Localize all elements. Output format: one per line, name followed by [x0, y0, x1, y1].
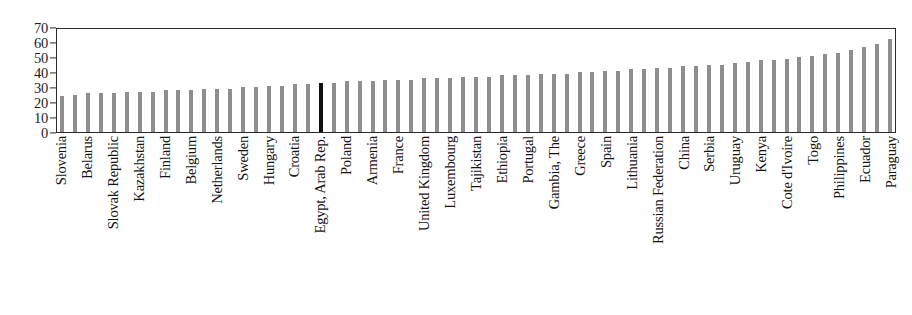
bar — [371, 81, 375, 132]
x-axis-tick-label: Belgium — [183, 136, 198, 185]
x-label-slot: Belgium — [189, 136, 193, 311]
x-label-slot — [617, 136, 621, 311]
x-axis-tick-label: Paraguay — [884, 136, 899, 188]
x-axis-tick-label: Slovak Republic — [106, 136, 121, 229]
bar — [500, 75, 504, 132]
x-axis-tick-label: Serbia — [702, 136, 717, 172]
bar — [215, 89, 219, 133]
bar — [280, 86, 284, 133]
bar — [164, 90, 168, 132]
y-axis-tick-label: 30 — [34, 81, 48, 96]
x-label-slot: Greece — [578, 136, 582, 311]
bar — [448, 78, 452, 132]
x-label-slot: France — [396, 136, 400, 311]
x-label-slot: Ethiopia — [500, 136, 504, 311]
x-label-slot: Armenia — [370, 136, 374, 311]
bar — [849, 50, 853, 133]
bar — [862, 47, 866, 133]
bar — [396, 80, 400, 133]
bar — [759, 60, 763, 132]
x-axis-tick-label: Ecuador — [858, 136, 873, 183]
x-label-slot — [746, 136, 750, 311]
bar — [694, 66, 698, 132]
x-axis-tick-label: Poland — [339, 136, 354, 175]
x-axis-labels: SloveniaBelarusSlovak RepublicKazakhstan… — [56, 136, 896, 311]
x-label-slot: Serbia — [707, 136, 711, 311]
bar — [112, 93, 116, 132]
x-axis-tick-label: France — [391, 136, 406, 174]
x-axis-tick-label: Uruguay — [728, 136, 743, 185]
x-axis-tick-label: China — [676, 136, 691, 170]
bar — [267, 86, 271, 133]
bar — [474, 77, 478, 133]
y-axis: 010203040506070 — [0, 22, 56, 139]
x-label-slot — [331, 136, 335, 311]
x-label-slot — [798, 136, 802, 311]
x-label-slot — [669, 136, 673, 311]
x-axis-tick-label: Netherlands — [209, 136, 224, 204]
bar — [836, 53, 840, 133]
bar — [565, 74, 569, 133]
x-axis-tick-label: Sweden — [235, 136, 250, 181]
x-label-slot: Portugal — [526, 136, 530, 311]
x-axis-tick-label: Greece — [573, 136, 588, 176]
bar — [189, 90, 193, 132]
bar — [823, 54, 827, 132]
x-label-slot — [539, 136, 543, 311]
x-label-slot: Poland — [344, 136, 348, 311]
bar-series — [57, 29, 895, 132]
x-label-slot: Cote d'Ivoire — [785, 136, 789, 311]
bar — [422, 78, 426, 132]
x-label-slot — [150, 136, 154, 311]
x-axis-tick-label: Gambia, The — [547, 136, 562, 209]
x-label-slot — [643, 136, 647, 311]
bar — [875, 44, 879, 133]
x-axis-tick-label: Russian Federation — [650, 136, 665, 244]
chart-container: 010203040506070 SloveniaBelarusSlovak Re… — [0, 0, 912, 315]
y-axis-tick-label: 60 — [34, 36, 48, 51]
x-label-slot — [279, 136, 283, 311]
x-label-slot — [383, 136, 387, 311]
x-label-slot — [772, 136, 776, 311]
bar — [681, 66, 685, 132]
x-axis-tick-label: Hungary — [261, 136, 276, 185]
x-label-slot — [72, 136, 76, 311]
x-label-slot: Togo — [811, 136, 815, 311]
bar — [202, 89, 206, 133]
x-label-slot: Sweden — [241, 136, 245, 311]
x-axis-tick-label: Slovenia — [54, 136, 69, 185]
bar — [241, 87, 245, 132]
x-label-slot: China — [682, 136, 686, 311]
bar — [293, 84, 297, 132]
x-label-slot — [435, 136, 439, 311]
x-axis-tick-label: Togo — [806, 136, 821, 165]
x-label-slot — [176, 136, 180, 311]
x-label-slot — [254, 136, 258, 311]
bar — [125, 92, 129, 133]
bar — [746, 62, 750, 133]
bar — [552, 74, 556, 133]
x-label-slot: Luxembourg — [448, 136, 452, 311]
x-label-slot: Ecuador — [863, 136, 867, 311]
x-label-slot — [202, 136, 206, 311]
x-axis-tick-label: Armenia — [365, 136, 380, 185]
x-axis-tick-label: Lithuania — [624, 136, 639, 190]
bar — [86, 93, 90, 132]
x-label-slot: Gambia, The — [552, 136, 556, 311]
x-label-slot — [720, 136, 724, 311]
bar — [578, 72, 582, 132]
bar — [228, 89, 232, 133]
bar — [888, 39, 892, 132]
x-axis-tick-label: Egypt, Arab Rep. — [313, 136, 328, 233]
x-axis-tick-label: Kazakhstan — [132, 136, 147, 202]
x-label-slot: Croatia — [292, 136, 296, 311]
bar — [99, 93, 103, 132]
bar — [590, 72, 594, 132]
y-axis-tick-label: 0 — [41, 126, 48, 141]
x-label-slot: Philippines — [837, 136, 841, 311]
bar — [603, 71, 607, 133]
x-label-slot — [565, 136, 569, 311]
x-label-slot: Kenya — [759, 136, 763, 311]
bar — [332, 83, 336, 133]
x-label-slot — [461, 136, 465, 311]
